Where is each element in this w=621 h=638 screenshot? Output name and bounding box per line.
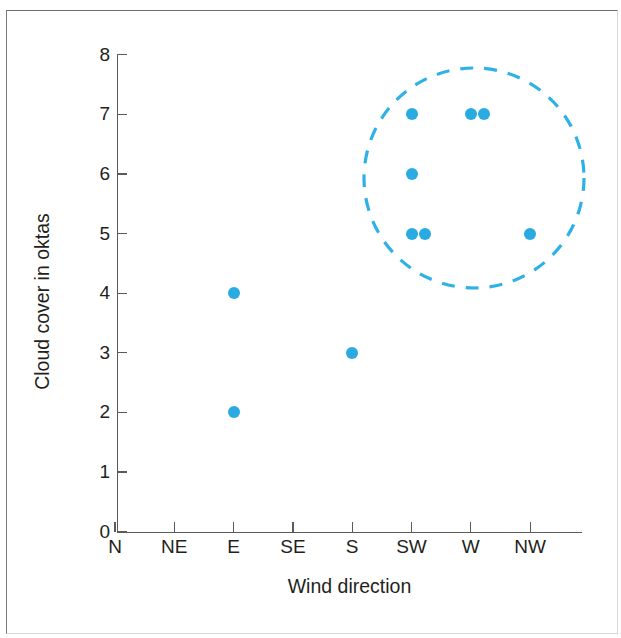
y-tick-4 (118, 293, 127, 294)
y-tick-1 (118, 471, 127, 472)
x-tick-label-SW: SW (382, 536, 442, 558)
x-tick-NE (174, 522, 175, 532)
data-point (419, 228, 431, 240)
y-tick-label-4: 4 (76, 283, 110, 302)
data-point (406, 168, 418, 180)
y-tick-label-6: 6 (76, 164, 110, 183)
y-tick-label-5: 5 (76, 224, 110, 243)
x-axis-line (117, 532, 582, 533)
x-tick-N (114, 522, 115, 532)
x-tick-NW (530, 522, 531, 532)
x-tick-label-NW: NW (500, 536, 560, 558)
x-tick-label-NE: NE (144, 536, 204, 558)
x-tick-W (470, 522, 471, 532)
x-tick-label-E: E (204, 536, 264, 558)
y-tick-label-text: 8 (80, 45, 110, 64)
data-point (406, 108, 418, 120)
y-tick-label-8: 8 (76, 45, 110, 64)
y-tick-label-text: 5 (80, 224, 110, 243)
data-point (478, 108, 490, 120)
y-tick-label-1: 1 (76, 462, 110, 481)
y-axis-title: Cloud cover in oktas (31, 152, 54, 452)
x-tick-label-W: W (441, 536, 501, 558)
data-point (465, 108, 477, 120)
chart-page: 012345678 NNEESESSWWNW Cloud cover in ok… (0, 0, 621, 638)
x-axis-title: Wind direction (117, 575, 582, 598)
y-tick-label-2: 2 (76, 402, 110, 421)
x-tick-SE (292, 522, 293, 532)
x-tick-S (352, 522, 353, 532)
y-tick-0 (118, 531, 127, 532)
data-point (228, 287, 240, 299)
y-tick-6 (118, 173, 127, 174)
data-point (406, 228, 418, 240)
y-tick-label-text: 7 (80, 104, 110, 123)
y-tick-7 (118, 114, 127, 115)
y-tick-3 (118, 352, 127, 353)
scatter-plot: 012345678 NNEESESSWWNW Cloud cover in ok… (0, 0, 621, 638)
x-tick-label-SE: SE (263, 536, 323, 558)
y-tick-label-7: 7 (76, 104, 110, 123)
data-point (346, 347, 358, 359)
x-tick-label-N: N (85, 536, 145, 558)
y-tick-5 (118, 233, 127, 234)
x-tick-SW (411, 522, 412, 532)
y-tick-label-text: 6 (80, 164, 110, 183)
data-point (228, 406, 240, 418)
y-tick-label-text: 2 (80, 402, 110, 421)
y-tick-label-3: 3 (76, 343, 110, 362)
y-tick-label-text: 4 (80, 283, 110, 302)
y-tick-label-text: 1 (80, 462, 110, 481)
data-point (524, 228, 536, 240)
x-tick-E (233, 522, 234, 532)
y-tick-label-text: 3 (80, 343, 110, 362)
y-tick-2 (118, 412, 127, 413)
x-tick-label-S: S (322, 536, 382, 558)
y-tick-8 (118, 54, 127, 55)
